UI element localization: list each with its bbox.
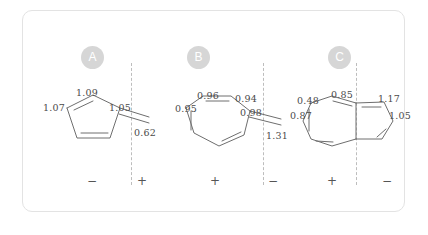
bond-label: 0.48 <box>297 95 319 106</box>
molecule-azulene <box>285 11 406 146</box>
panel-b: B 0.96 0.94 0.95 0.98 1.31 + − <box>153 11 285 211</box>
bond-label: 0.87 <box>290 110 312 121</box>
bond-label: 0.98 <box>240 107 262 118</box>
polarity-sign-negative: − <box>266 174 280 188</box>
polarity-sign-positive: + <box>208 174 222 188</box>
bond-label: 1.07 <box>43 102 65 113</box>
diagram-card: A 1.09 1.07 1.05 0.62 − + B <box>22 10 405 212</box>
polarity-sign-negative: − <box>380 174 394 188</box>
bond-label: 1.05 <box>109 102 131 113</box>
polarity-sign-positive: + <box>135 174 149 188</box>
bond-label: 0.85 <box>331 89 353 100</box>
bond-label: 0.95 <box>175 103 197 114</box>
molecule-fulvene <box>23 11 153 141</box>
panel-c: C 0.48 0.85 1.17 0.87 1.05 + − <box>285 11 406 211</box>
molecule-heptafulvene <box>153 11 285 146</box>
bond-label: 1.17 <box>378 93 400 104</box>
polarity-sign-negative: − <box>85 174 99 188</box>
panel-a: A 1.09 1.07 1.05 0.62 − + <box>23 11 153 211</box>
bond-label: 1.09 <box>76 87 98 98</box>
bond-label: 0.96 <box>197 90 219 101</box>
polarity-sign-positive: + <box>325 174 339 188</box>
bond-label: 1.05 <box>389 110 411 121</box>
bond-label: 0.94 <box>235 93 257 104</box>
